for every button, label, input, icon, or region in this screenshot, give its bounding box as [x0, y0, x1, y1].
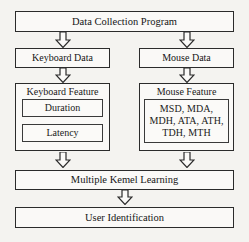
node-mouse-feature-items[interactable]: MSD, MDA, MDH, ATA, ATH, TDH, MTH [144, 99, 229, 143]
node-multiple-kernel-learning-label: Multiple Kemel Learning [16, 174, 233, 186]
node-latency[interactable]: Latency [22, 124, 103, 142]
arrow-collection-to-keyboard-data [55, 32, 71, 48]
node-duration-label: Duration [45, 102, 81, 114]
arrow-keyboard-feature-to-mkl [55, 152, 71, 168]
node-keyboard-feature-label: Keyboard Feature [16, 86, 109, 97]
node-mouse-feature-label: Mouse Feature [140, 86, 233, 97]
node-multiple-kernel-learning[interactable]: Multiple Kemel Learning [15, 170, 234, 190]
node-mouse-data-label: Mouse Data [140, 52, 233, 63]
arrow-keyboard-data-to-keyboard-feature [55, 68, 71, 83]
arrow-mkl-to-user-identification [117, 190, 133, 205]
arrow-mouse-data-to-mouse-feature [179, 68, 195, 83]
node-keyboard-data[interactable]: Keyboard Data [15, 48, 110, 68]
node-mouse-data[interactable]: Mouse Data [139, 48, 234, 68]
arrow-collection-to-mouse-data [179, 32, 195, 48]
arrow-mouse-feature-to-mkl [179, 152, 195, 168]
node-keyboard-data-label: Keyboard Data [16, 52, 109, 63]
node-data-collection-program[interactable]: Data Collection Program [15, 11, 234, 32]
node-latency-label: Latency [46, 127, 78, 139]
node-user-identification[interactable]: User Identification [15, 207, 234, 228]
node-mouse-feature-items-label: MSD, MDA, MDH, ATA, ATH, TDH, MTH [146, 103, 227, 138]
node-duration[interactable]: Duration [22, 99, 103, 117]
flowchart-diagram: Data Collection Program Keyboard Data Mo… [0, 0, 249, 242]
node-data-collection-program-label: Data Collection Program [16, 16, 233, 28]
node-user-identification-label: User Identification [16, 212, 233, 224]
